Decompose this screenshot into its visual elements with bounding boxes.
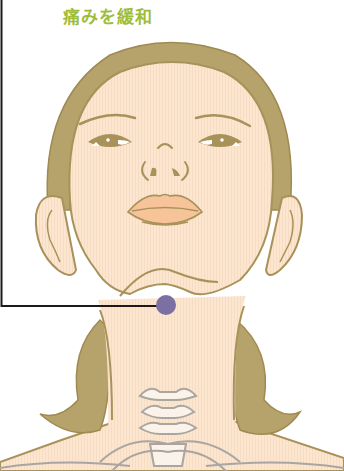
face: [69, 62, 273, 294]
face-illustration: [0, 0, 344, 471]
acupoint-marker: [156, 295, 176, 315]
hair-left-lock: [40, 320, 110, 433]
hair-right-lock: [230, 320, 300, 434]
